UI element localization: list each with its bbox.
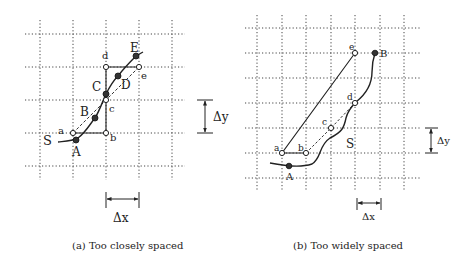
panel-a-delta-y-label: Δy xyxy=(213,110,229,124)
panel-b-delta-x xyxy=(357,198,381,210)
label-a-lower-b: b xyxy=(110,132,116,143)
panel-a: A B C D E a b c d e S Δy Δx xyxy=(25,20,229,225)
label-b-lower-e: e xyxy=(349,42,354,52)
panel-b-curve-s xyxy=(270,53,375,166)
panel-b-delta-y-label: Δy xyxy=(437,135,450,146)
label-a-upper-E: E xyxy=(130,41,139,55)
figure-canvas: A B C D E a b c d e S Δy Δx xyxy=(0,0,466,273)
panel-b: A B a b c d e S Δy Δx xyxy=(245,15,450,222)
label-a-lower-e: e xyxy=(141,70,147,81)
panel-b-delta-x-label: Δx xyxy=(362,211,375,222)
label-b-upper-B: B xyxy=(380,48,387,59)
label-b-lower-b: b xyxy=(298,143,304,153)
panel-a-delta-x-label: Δx xyxy=(113,211,129,225)
panel-a-delta-x xyxy=(106,192,139,208)
panel-a-caption: (a) Too closely spaced xyxy=(72,240,183,251)
label-a-lower-d: d xyxy=(102,50,109,61)
label-b-curve-s: S xyxy=(346,137,354,151)
label-a-upper-D: D xyxy=(121,78,131,92)
panel-a-curve-s xyxy=(58,52,143,142)
label-b-lower-c: c xyxy=(322,117,327,127)
label-b-lower-d: d xyxy=(347,92,353,102)
label-b-lower-a: a xyxy=(274,143,280,153)
panel-b-caption: (b) Too widely spaced xyxy=(293,240,403,251)
label-a-curve-s: S xyxy=(43,133,52,148)
label-a-lower-a: a xyxy=(58,125,64,136)
label-a-upper-B: B xyxy=(80,105,89,119)
label-a-upper-A: A xyxy=(71,145,81,159)
label-a-lower-c: c xyxy=(109,103,115,114)
label-a-upper-C: C xyxy=(92,80,101,94)
label-b-upper-A: A xyxy=(285,171,294,182)
panel-a-delta-y xyxy=(197,100,213,133)
